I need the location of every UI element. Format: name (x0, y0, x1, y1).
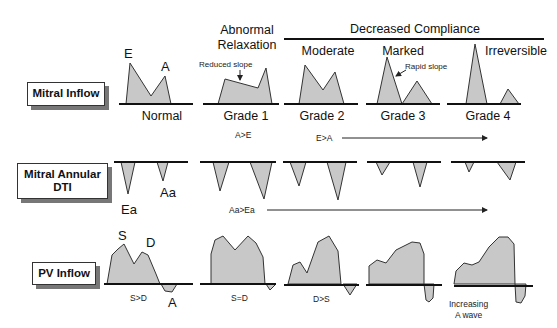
ratio-d-gt-s: D>S (313, 295, 330, 304)
pv-grade4 (454, 237, 526, 303)
peak-label-a: A (161, 60, 170, 73)
dti-grade1 (213, 162, 272, 199)
note-increasing-a-wave: Increasing A wave (449, 299, 488, 321)
annotation-reduced-slope: Reduced slope (199, 61, 252, 69)
header-abnormal-line2: Relaxation (212, 38, 282, 53)
peak-label-ea: Ea (121, 203, 137, 216)
dti-grade4 (465, 162, 516, 180)
mitral-inflow-grade1 (218, 68, 272, 104)
header-marked: Marked (378, 45, 428, 58)
peak-label-aa: Aa (160, 186, 176, 199)
note-line2: A wave (449, 310, 488, 321)
dti-grade2 (290, 162, 346, 200)
peak-label-e: E (124, 47, 133, 60)
peak-label-d: D (146, 236, 155, 249)
grade-label-grade4: Grade 4 (458, 110, 518, 123)
annotation-rapid-slope: Rapid slope (405, 63, 447, 71)
grade-label-grade3: Grade 3 (373, 110, 433, 123)
pv-grade3 (369, 242, 434, 302)
peak-label-s: S (118, 229, 127, 242)
header-abnormal-line1: Abnormal (212, 23, 282, 38)
ratio-s-gt-d: S>D (130, 294, 147, 303)
row-label-mitral-annular-dti-text: Mitral Annular DTI (24, 168, 101, 194)
peak-label-pv-a: A (168, 296, 177, 309)
grade-label-grade1: Grade 1 (216, 110, 276, 123)
row-label-mitral-inflow-text: Mitral Inflow (32, 87, 99, 100)
mitral-inflow-grade2 (299, 65, 344, 104)
dti-grade3 (376, 162, 427, 187)
row-label-mitral-inflow: Mitral Inflow (27, 82, 105, 106)
header-abnormal-relaxation: Abnormal Relaxation (212, 23, 282, 53)
ratio-a-gt-e: A>E (235, 131, 251, 140)
grade-label-grade2: Grade 2 (292, 110, 352, 123)
header-irreversible: Irreversible (481, 45, 551, 58)
header-decreased-compliance: Decreased Compliance (340, 23, 490, 36)
ratio-e-gt-a: E>A (316, 134, 332, 143)
row-label-pv-inflow: PV Inflow (32, 262, 96, 285)
row-label-mitral-annular-dti: Mitral Annular DTI (17, 163, 108, 199)
grade-label-normal: Normal (132, 110, 192, 123)
row-label-pv-inflow-text: PV Inflow (38, 267, 90, 280)
pv-grade2 (288, 236, 357, 295)
header-moderate: Moderate (296, 45, 360, 58)
pv-grade1 (211, 236, 276, 290)
ratio-aa-gt-ea: Aa>Ea (229, 206, 255, 215)
ratio-s-eq-d: S=D (231, 294, 248, 303)
note-line1: Increasing (449, 299, 488, 310)
